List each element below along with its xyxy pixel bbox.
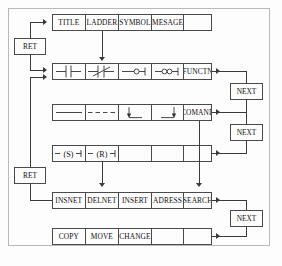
connector-ret-top-down-h: [30, 70, 44, 71]
contact-double-circle-icon: [153, 64, 183, 79]
connector-comand-v: [246, 112, 247, 124]
menu-item-copy[interactable]: COPY: [53, 229, 86, 244]
menu-item-line-solid[interactable]: [53, 105, 86, 120]
coil-set-icon: (S): [53, 146, 84, 161]
cell-label: SYMBOL: [119, 18, 150, 27]
cell-label: LADDER: [87, 18, 118, 27]
connector-ret-bottom-down: [30, 184, 31, 201]
menu-item-coil-reset[interactable]: (R): [86, 146, 120, 161]
svg-text:(R): (R): [96, 150, 107, 159]
arrow-ret-top-down: [43, 67, 47, 73]
connector-delnet-down: [102, 162, 103, 183]
menu-item-insnet[interactable]: INSNET: [53, 193, 86, 208]
menu-item-symbol[interactable]: SYMBOL: [119, 15, 152, 30]
menu-item-blank-4[interactable]: [184, 146, 211, 161]
connector-ret-top-up: [30, 22, 31, 39]
menu-item-mesage[interactable]: MESAGE: [152, 15, 185, 30]
menu-item-functn[interactable]: FUNCTN: [184, 64, 211, 79]
menu-item-contact-circle[interactable]: [119, 64, 152, 79]
arrow-comand-to-search: [196, 183, 202, 187]
contact-nc-icon: [86, 64, 117, 79]
menu-item-contact-no[interactable]: [53, 64, 86, 79]
menu-item-blank-6[interactable]: [184, 229, 211, 244]
connector-search-v: [246, 200, 247, 210]
menu-item-title[interactable]: TITLE: [53, 15, 86, 30]
menu-item-blank-5[interactable]: [152, 229, 185, 244]
cell-label: INSERT: [122, 196, 148, 205]
contact-no-icon: [54, 64, 84, 79]
connector-ret-bottom-up: [30, 77, 31, 167]
next-2-label: NEXT: [237, 128, 257, 137]
cell-label: ADRESS: [153, 196, 182, 205]
contact-circle-icon: [120, 64, 150, 79]
connector-ret-top-down: [30, 55, 31, 71]
connector-ladder-down: [102, 31, 103, 58]
arrow-ladder-down: [99, 57, 105, 61]
arrow-next3-to-bottom: [216, 233, 220, 239]
ret-top-button[interactable]: RET: [14, 38, 46, 55]
row-coils: (S) (R): [52, 145, 212, 162]
arrow-next2-to-row4: [216, 150, 220, 156]
row-edit: INSNET DELNET INSERT ADRESS SEARCH: [52, 192, 212, 209]
row-contacts: FUNCTN: [52, 63, 212, 80]
next-3-label: NEXT: [237, 214, 257, 223]
next-1-label: NEXT: [237, 87, 257, 96]
ret-bottom-label: RET: [23, 171, 37, 180]
branch-left-icon: [120, 105, 150, 120]
menu-item-line-dashed[interactable]: [86, 105, 120, 120]
menu-item-branch-right[interactable]: [152, 105, 185, 120]
menu-item-branch-left[interactable]: [119, 105, 152, 120]
next-2-button[interactable]: NEXT: [230, 124, 263, 141]
cell-label: COMAND: [184, 108, 211, 117]
menu-item-delnet[interactable]: DELNET: [86, 193, 120, 208]
connector-search-h: [212, 200, 247, 201]
line-solid-icon: [54, 105, 84, 120]
menu-item-blank-1[interactable]: [184, 15, 211, 30]
menu-item-adress[interactable]: ADRESS: [152, 193, 185, 208]
menu-item-comand[interactable]: COMAND: [184, 105, 211, 120]
cell-label: MOVE: [91, 232, 113, 241]
cell-label: MESAGE: [152, 18, 183, 27]
arrow-delnet-down: [99, 183, 105, 187]
ladder-menu-diagram: TITLE LADDER SYMBOL MESAGE: [0, 0, 282, 266]
row-lines: COMAND: [52, 104, 212, 121]
cell-label: FUNCTN: [184, 67, 211, 76]
ret-bottom-button[interactable]: RET: [14, 167, 46, 184]
row-main-menu: TITLE LADDER SYMBOL MESAGE: [52, 14, 212, 31]
menu-item-contact-nc[interactable]: [86, 64, 120, 79]
connector-next1-v: [246, 100, 247, 112]
menu-item-search[interactable]: SEARCH: [184, 193, 211, 208]
connector-ret-top-up-h: [30, 22, 44, 23]
row-clipboard: COPY MOVE CHANGE: [52, 228, 212, 245]
line-dashed-icon: [86, 105, 117, 120]
cell-label: SEARCH: [184, 196, 211, 205]
figure-caption: [0, 254, 282, 266]
menu-item-change[interactable]: CHANGE: [119, 229, 152, 244]
connector-ret-bottom-up-h: [30, 77, 44, 78]
connector-comand-to-search: [199, 121, 200, 183]
arrow-ret-bottom-up: [43, 74, 47, 80]
cell-label: COPY: [59, 232, 79, 241]
connector-ret-bottom-down-h: [30, 200, 52, 201]
menu-item-blank-3[interactable]: [152, 146, 185, 161]
menu-item-move[interactable]: MOVE: [86, 229, 120, 244]
connector-functn-h: [212, 71, 247, 72]
arrow-next1-to-comand: [216, 109, 220, 115]
menu-item-contact-double-circle[interactable]: [152, 64, 185, 79]
svg-text:(S): (S): [64, 150, 74, 159]
ret-top-label: RET: [23, 42, 37, 51]
menu-item-insert[interactable]: INSERT: [119, 193, 152, 208]
menu-item-ladder[interactable]: LADDER: [86, 15, 120, 30]
cell-label: INSNET: [55, 196, 82, 205]
next-1-button[interactable]: NEXT: [230, 83, 263, 100]
menu-item-coil-set[interactable]: (S): [53, 146, 86, 161]
coil-reset-icon: (R): [86, 146, 118, 161]
branch-right-icon: [153, 105, 183, 120]
menu-item-blank-2[interactable]: [119, 146, 152, 161]
next-3-button[interactable]: NEXT: [230, 210, 263, 227]
arrow-ret-top-up: [43, 19, 47, 25]
cell-label: TITLE: [58, 18, 79, 27]
connector-next2-v: [246, 141, 247, 153]
connector-functn-v: [246, 71, 247, 83]
cell-label: CHANGE: [119, 232, 150, 241]
